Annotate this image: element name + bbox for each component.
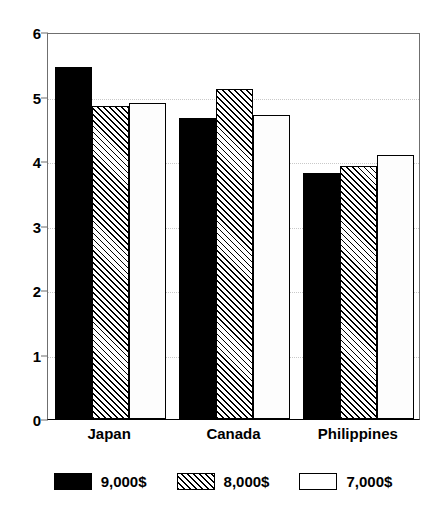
y-axis-tick-label: 5 <box>19 90 41 105</box>
bar <box>179 118 216 419</box>
legend-label: 9,000$ <box>101 474 147 489</box>
y-axis-tick-label: 0 <box>19 413 41 428</box>
chart-root: 0123456 JapanCanadaPhilippines 9,000$8,0… <box>0 0 446 523</box>
bar <box>303 173 340 419</box>
legend-label: 7,000$ <box>346 474 392 489</box>
y-axis-tick-label: 6 <box>19 26 41 41</box>
x-axis-category-label: Canada <box>206 425 260 442</box>
legend-label: 8,000$ <box>224 474 270 489</box>
legend-item[interactable]: 7,000$ <box>299 473 392 490</box>
legend-item[interactable]: 9,000$ <box>54 473 147 490</box>
bar <box>377 155 414 419</box>
plot-area <box>47 33 420 420</box>
bar <box>92 106 129 419</box>
bar-group <box>179 34 290 419</box>
chart-legend: 9,000$8,000$7,000$ <box>0 473 446 490</box>
x-axis-category-label: Japan <box>87 425 130 442</box>
y-axis-tick-label: 2 <box>19 284 41 299</box>
bar <box>253 115 290 419</box>
legend-swatch-icon <box>54 473 92 490</box>
x-axis-labels: JapanCanadaPhilippines <box>47 425 420 449</box>
bar-group <box>303 34 414 419</box>
y-axis: 0123456 <box>12 33 41 420</box>
legend-swatch-icon <box>177 473 215 490</box>
legend-item[interactable]: 8,000$ <box>177 473 270 490</box>
bar <box>216 89 253 419</box>
bar <box>340 166 377 419</box>
bar <box>55 67 92 419</box>
y-axis-tick-label: 3 <box>19 219 41 234</box>
y-axis-tick-label: 1 <box>19 348 41 363</box>
bar <box>129 103 166 419</box>
bar-group <box>55 34 166 419</box>
legend-swatch-icon <box>299 473 337 490</box>
y-axis-tick-label: 4 <box>19 155 41 170</box>
x-axis-category-label: Philippines <box>318 425 398 442</box>
